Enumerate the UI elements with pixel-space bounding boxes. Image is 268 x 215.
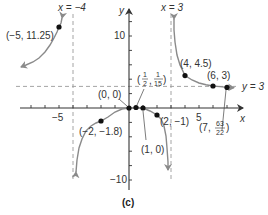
- point-label-6: (6, 3): [207, 70, 230, 81]
- svg-text:1: 1: [156, 71, 160, 78]
- function-curves: [21, 18, 234, 172]
- y-axis-label: y: [118, 5, 125, 16]
- point-label-2: (2, −1): [160, 116, 189, 127]
- asymptote-label-x-neg4: x = −4: [57, 2, 86, 13]
- point-2-neg1: [154, 112, 159, 117]
- point-7-63over22: [224, 85, 229, 90]
- point-label-neg5: (−5, 11.25): [6, 30, 54, 41]
- point-label-4: (4, 4.5): [180, 58, 212, 69]
- svg-text:1: 1: [143, 71, 147, 78]
- x-tick-label-neg5: −5: [52, 112, 64, 123]
- point-1-0: [140, 105, 145, 110]
- point-neg5-11.25: [56, 24, 61, 29]
- point-neg2-neg1.8: [98, 118, 103, 123]
- point-label-0: (0, 0): [98, 89, 121, 100]
- curve-middle-branch: [76, 108, 168, 173]
- asymptote-label-y-3: y = 3: [241, 81, 264, 92]
- point-6-3: [210, 83, 215, 88]
- svg-text:): ): [163, 74, 166, 85]
- svg-text:(: (: [137, 74, 141, 85]
- svg-text:22: 22: [216, 129, 224, 136]
- svg-text:,: ,: [149, 75, 152, 86]
- svg-text:): ): [226, 122, 229, 133]
- svg-text:2: 2: [143, 80, 147, 87]
- svg-text:63: 63: [216, 120, 224, 127]
- rational-function-graph: x = −4 x = 3 y = 3 x y −5 5 10 −10 (−5, …: [0, 0, 268, 215]
- point-label-1: (1, 0): [141, 144, 164, 155]
- x-axis-label: x: [239, 113, 246, 124]
- y-tick-label-neg10: −10: [110, 174, 127, 185]
- point-label-7: (7, 63 22 ): [199, 120, 229, 136]
- point-half-1over15: [133, 105, 138, 110]
- point-label-half: ( 1 2 , 1 15 ): [137, 71, 166, 87]
- figure-caption: (c): [122, 197, 134, 208]
- svg-text:(7,: (7,: [199, 122, 211, 133]
- y-tick-label-10: 10: [114, 30, 126, 41]
- point-4-4.5: [182, 73, 187, 78]
- asymptote-label-x-3: x = 3: [160, 2, 183, 13]
- point-0-0: [126, 105, 131, 110]
- svg-text:15: 15: [154, 80, 162, 87]
- curve-left-branch: [21, 18, 62, 67]
- point-label-neg2: (−2, −1.8): [79, 126, 122, 137]
